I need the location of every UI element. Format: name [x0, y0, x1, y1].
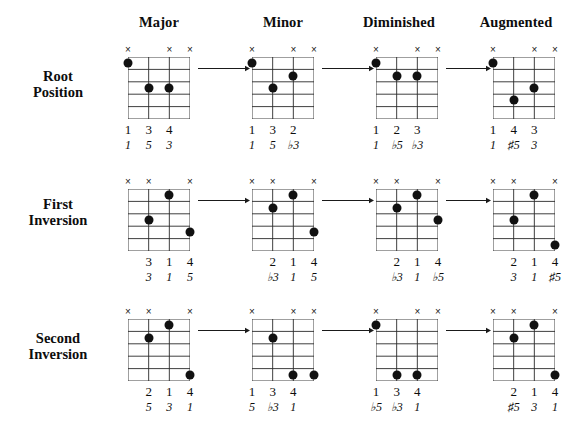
finger-number: 4: [507, 122, 521, 137]
interval-label: 5: [141, 400, 157, 415]
column-header-augmented: Augmented: [459, 14, 573, 31]
fretboard-lines: [493, 189, 555, 251]
interval-label: ♯5: [506, 138, 522, 153]
interval-label: 1: [409, 270, 425, 285]
interval-label: 1: [285, 270, 301, 285]
finger-number: 4: [431, 254, 445, 269]
chord-diagram: ×××214♭315: [246, 176, 320, 285]
interval-label: 3: [161, 138, 177, 153]
interval-labels-row: 1♭5♭3: [370, 138, 444, 153]
finger-numbers-row: 143: [487, 122, 561, 137]
fretted-note-dot: [551, 240, 560, 249]
transform-arrow: [446, 64, 491, 73]
mute-x-icon: ×: [530, 44, 539, 55]
interval-labels-row: ♭31♭5: [370, 270, 444, 285]
finger-number: 4: [307, 254, 321, 269]
fretted-note-dot: [268, 84, 277, 93]
muted-strings-row: ×××: [122, 306, 196, 319]
fretted-note-dot: [165, 191, 174, 200]
mute-x-icon: ×: [413, 44, 422, 55]
chord-diagram: ×××1345♭31: [246, 306, 320, 415]
column-header-minor: Minor: [226, 14, 340, 31]
muted-strings-row: ×××: [487, 306, 561, 319]
fretted-note-dot: [186, 370, 195, 379]
interval-label: 3: [526, 138, 542, 153]
interval-label: 1: [120, 138, 136, 153]
mute-x-icon: ×: [186, 306, 195, 317]
interval-labels-row: 5♭31: [246, 400, 320, 415]
mute-x-icon: ×: [489, 306, 498, 317]
fretboard-lines: [376, 189, 438, 251]
finger-number: 4: [548, 384, 562, 399]
row-label-line-2: Inversion: [6, 212, 110, 228]
fretboard-grid: [493, 319, 555, 381]
row-label-root-position: RootPosition: [6, 68, 110, 100]
row-label-line-1: Root: [6, 68, 110, 84]
chord-diagram: ×××314315: [122, 176, 196, 285]
chord-diagram: ×××21431♯5: [487, 176, 561, 285]
fretboard-lines: [128, 57, 190, 119]
fretted-note-dot: [509, 216, 518, 225]
mute-x-icon: ×: [124, 176, 133, 187]
fretboard-grid: [128, 189, 190, 251]
chord-diagram: ×××134153: [122, 44, 196, 153]
fretted-note-dot: [165, 321, 174, 330]
interval-labels-row: ♭5♭31: [370, 400, 444, 415]
column-header-major: Major: [102, 14, 216, 31]
finger-numbers-row: 214: [487, 384, 561, 399]
chord-diagram: ×××214♯531: [487, 306, 561, 415]
interval-labels-row: 31♯5: [487, 270, 561, 285]
muted-strings-row: ×××: [370, 44, 444, 57]
finger-number: 2: [286, 122, 300, 137]
finger-number: 1: [527, 384, 541, 399]
finger-number: 3: [527, 122, 541, 137]
finger-number: 4: [162, 122, 176, 137]
mute-x-icon: ×: [551, 176, 560, 187]
transform-arrow: [198, 196, 250, 205]
finger-numbers-row: 214: [487, 254, 561, 269]
row-label-line-2: Position: [6, 84, 110, 100]
mute-x-icon: ×: [248, 44, 257, 55]
interval-label: 3: [506, 270, 522, 285]
mute-x-icon: ×: [392, 176, 401, 187]
finger-number: 2: [142, 384, 156, 399]
interval-label: ♯5: [506, 400, 522, 415]
chord-diagram: ×××134♭5♭31: [370, 306, 444, 415]
row-label-line-1: Second: [6, 330, 110, 346]
fretted-note-dot: [392, 370, 401, 379]
mute-x-icon: ×: [248, 176, 257, 187]
finger-number: 1: [245, 122, 259, 137]
interval-label: 1: [285, 400, 301, 415]
finger-number: 2: [390, 122, 404, 137]
interval-label: 1: [485, 138, 501, 153]
mute-x-icon: ×: [434, 44, 443, 55]
muted-strings-row: ×××: [122, 44, 196, 57]
muted-strings-row: ×××: [487, 44, 561, 57]
transform-arrow: [322, 196, 374, 205]
transform-arrow: [198, 64, 250, 73]
transform-arrow: [198, 326, 250, 335]
interval-label: ♭3: [409, 138, 425, 153]
finger-number: 3: [266, 122, 280, 137]
finger-number: 4: [410, 384, 424, 399]
fretboard-grid: [376, 189, 438, 251]
mute-x-icon: ×: [144, 306, 153, 317]
interval-label: 5: [306, 270, 322, 285]
mute-x-icon: ×: [165, 44, 174, 55]
fretted-note-dot: [144, 84, 153, 93]
finger-number: 3: [142, 122, 156, 137]
finger-number: 3: [142, 254, 156, 269]
mute-x-icon: ×: [551, 44, 560, 55]
fretboard-lines: [128, 319, 190, 381]
interval-label: ♭5: [430, 270, 446, 285]
mute-x-icon: ×: [144, 176, 153, 187]
fretted-note-dot: [509, 96, 518, 105]
interval-label: 5: [265, 138, 281, 153]
fretted-note-dot: [392, 71, 401, 80]
column-header-diminished: Diminished: [342, 14, 456, 31]
interval-label: 5: [244, 400, 260, 415]
finger-number: 2: [390, 254, 404, 269]
finger-number: 4: [286, 384, 300, 399]
fretted-note-dot: [413, 370, 422, 379]
fretted-note-dot: [413, 71, 422, 80]
